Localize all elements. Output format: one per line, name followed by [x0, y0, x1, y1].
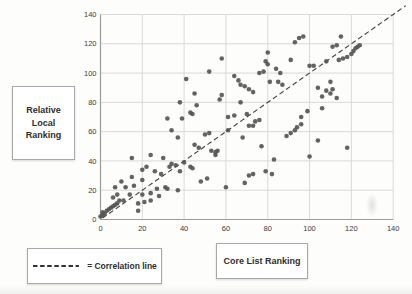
scatter-point: [265, 62, 270, 67]
x-tick-label: 0: [98, 224, 102, 233]
scatter-point: [236, 78, 241, 83]
scatter-point: [339, 34, 344, 39]
scatter-point: [247, 173, 252, 178]
scatter-point: [265, 50, 270, 55]
scatter-point: [205, 176, 210, 181]
scatter-point: [148, 198, 153, 203]
scatter-point: [127, 192, 132, 197]
scatter-point: [232, 74, 237, 79]
scatter-point: [121, 198, 126, 203]
scatter-point: [182, 160, 187, 165]
y-tick-label: 20: [88, 186, 96, 195]
correlation-line: [103, 6, 406, 218]
scatter-point: [178, 169, 183, 174]
scatter-point: [180, 116, 185, 121]
x-tick-label: 20: [138, 224, 146, 233]
scatter-point: [268, 80, 273, 85]
scatter-point: [293, 40, 298, 45]
y-axis-label-line3: Ranking: [26, 129, 62, 142]
scatter-point: [288, 58, 293, 63]
scatter-point: [257, 118, 262, 123]
y-tick-label: 80: [88, 98, 96, 107]
scatter-point: [113, 185, 118, 190]
scatter-point: [136, 201, 141, 206]
x-axis-label-box: Core List Ranking: [216, 243, 308, 279]
scatter-point: [144, 164, 149, 169]
scatter-point: [215, 148, 220, 153]
scatter-point: [263, 169, 268, 174]
x-tick-label: 80: [264, 224, 272, 233]
scatter-point: [299, 115, 304, 120]
y-tick-label: 120: [84, 39, 97, 48]
scatter-point: [341, 56, 346, 61]
x-tick-label: 40: [180, 224, 188, 233]
scatter-point: [297, 36, 302, 41]
scatter-point: [259, 144, 264, 149]
scatter-point: [330, 87, 335, 92]
scatter-point: [165, 116, 170, 121]
legend-label: = Correlation line: [87, 261, 157, 271]
y-axis-label-line2: Local: [32, 117, 56, 130]
scatter-point: [130, 156, 135, 161]
scatter-point: [295, 125, 300, 130]
scatter-point: [337, 58, 342, 63]
scatter-point: [159, 172, 164, 177]
y-tick-label: 40: [88, 157, 96, 166]
x-tick-label: 60: [222, 224, 230, 233]
scatter-point: [140, 178, 145, 183]
scatter-point: [165, 186, 170, 191]
scatter-point: [251, 172, 256, 177]
scatter-point: [247, 123, 252, 128]
scatter-point: [238, 82, 243, 87]
scatter-point: [184, 77, 189, 82]
y-tick-label: 0: [92, 215, 96, 224]
scatter-point: [176, 135, 181, 140]
scatter-point: [199, 179, 204, 184]
scatter-point: [169, 162, 174, 167]
x-axis-label: Core List Ranking: [223, 256, 300, 266]
scatter-point: [142, 200, 147, 205]
scatter-point: [357, 43, 362, 48]
scatter-point: [272, 157, 277, 162]
scatter-point: [324, 59, 329, 64]
scatter-point: [334, 96, 339, 101]
scatter-point: [196, 145, 201, 150]
scatter-point: [161, 156, 166, 161]
scatter-point: [280, 82, 285, 87]
scatter-point: [288, 131, 293, 136]
scatter-point: [219, 56, 224, 61]
scatter-point: [251, 123, 256, 128]
scatter-point: [307, 154, 312, 159]
scatter-point: [305, 109, 310, 114]
x-tick-label: 140: [387, 224, 400, 233]
scatter-point: [238, 100, 243, 105]
scatter-point: [226, 128, 231, 133]
scatter-point: [270, 172, 275, 177]
scatter-point: [176, 188, 181, 193]
scatter-point: [242, 181, 247, 186]
scatter-point: [328, 91, 333, 96]
scatter-point: [224, 185, 229, 190]
scatter-point: [155, 186, 160, 191]
scatter-point: [219, 93, 224, 98]
scatter-point: [301, 34, 306, 39]
scatter-point: [284, 134, 289, 139]
x-tick-label: 100: [303, 224, 316, 233]
scatter-point: [169, 128, 174, 133]
scatter-point: [328, 80, 333, 85]
scatter-point: [119, 179, 124, 184]
scatter-point: [257, 71, 262, 76]
scatter-point: [207, 131, 212, 136]
scatter-point: [148, 191, 153, 196]
scatter-point: [148, 153, 153, 158]
scatter-point: [345, 145, 350, 150]
scatter-point: [240, 135, 245, 140]
scatter-point: [157, 194, 162, 199]
scatter-point: [117, 198, 122, 203]
scatter-point: [194, 103, 199, 108]
legend-box: = Correlation line: [27, 248, 162, 284]
y-axis-label-box: Relative Local Ranking: [12, 86, 75, 160]
chart-canvas: 020406080100120140020406080100120140 Rel…: [0, 0, 412, 294]
x-tick-label: 120: [345, 224, 358, 233]
scatter-point: [190, 112, 195, 117]
